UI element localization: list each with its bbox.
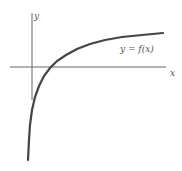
function-graph: y x y = f(x) (0, 0, 182, 171)
curve-label: y = f(x) (119, 44, 154, 54)
y-axis-label: y (33, 11, 40, 21)
x-axis-label: x (170, 68, 175, 78)
